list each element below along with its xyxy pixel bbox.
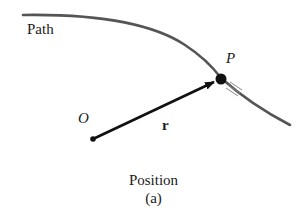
origin-point [90,136,96,142]
position-diagram: Path P O r Position (a) [0,0,307,222]
particle-point [216,74,227,85]
vector-r-label: r [162,117,169,134]
caption-title: Position [0,172,307,189]
caption-subfigure: (a) [0,190,307,207]
path-label: Path [27,21,54,38]
point-p-label: P [226,50,235,67]
position-vector-arrow [93,82,214,139]
origin-o-label: O [78,110,89,127]
